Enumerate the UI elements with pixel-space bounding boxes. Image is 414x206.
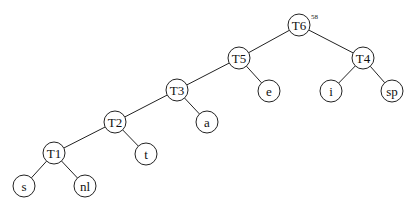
root-weight-label: 58 <box>311 13 319 21</box>
edge-T4-sp <box>370 66 384 82</box>
tree-node-e: e <box>258 80 280 102</box>
edge-T5-T3 <box>187 63 229 85</box>
tree-node-i: i <box>320 80 342 102</box>
tree-edges <box>31 30 384 178</box>
tree-node-nl: nl <box>74 175 96 197</box>
tree-node-a: a <box>196 111 218 133</box>
edge-T4-i <box>339 66 356 83</box>
node-label: a <box>204 115 210 130</box>
edge-T3-T2 <box>125 95 167 117</box>
tree-node-T4: T4 <box>352 47 374 69</box>
tree-node-t: t <box>135 143 157 165</box>
node-label: sp <box>386 84 398 99</box>
edge-T2-T1 <box>64 127 105 148</box>
tree-node-s: s <box>13 175 35 197</box>
tree-node-T1: T1 <box>43 142 65 164</box>
tree-node-T2: T2 <box>104 111 126 133</box>
node-label: T6 <box>292 18 307 33</box>
node-label: T3 <box>170 83 184 98</box>
edge-T5-e <box>246 66 261 83</box>
tree-diagram: T6T5T4T3eispT2aT1tsnl 58 <box>0 0 414 206</box>
node-label: T1 <box>47 146 61 161</box>
edge-T1-nl <box>62 161 78 178</box>
edge-T6-T4 <box>309 30 353 53</box>
tree-node-T6: T6 <box>288 14 310 36</box>
node-label: t <box>144 147 148 162</box>
node-label: e <box>266 84 272 99</box>
node-label: T4 <box>356 51 371 66</box>
node-label: T5 <box>232 51 246 66</box>
node-label: nl <box>80 179 91 194</box>
node-label: i <box>329 84 333 99</box>
node-label: T2 <box>108 115 122 130</box>
node-label: s <box>21 179 26 194</box>
tree-nodes: T6T5T4T3eispT2aT1tsnl <box>13 14 403 197</box>
tree-node-sp: sp <box>381 80 403 102</box>
edge-T6-T5 <box>249 30 290 52</box>
tree-node-T3: T3 <box>166 79 188 101</box>
edge-T1-s <box>31 161 46 178</box>
edge-T3-a <box>185 98 200 114</box>
tree-node-T5: T5 <box>228 47 250 69</box>
edge-T2-t <box>123 130 139 146</box>
